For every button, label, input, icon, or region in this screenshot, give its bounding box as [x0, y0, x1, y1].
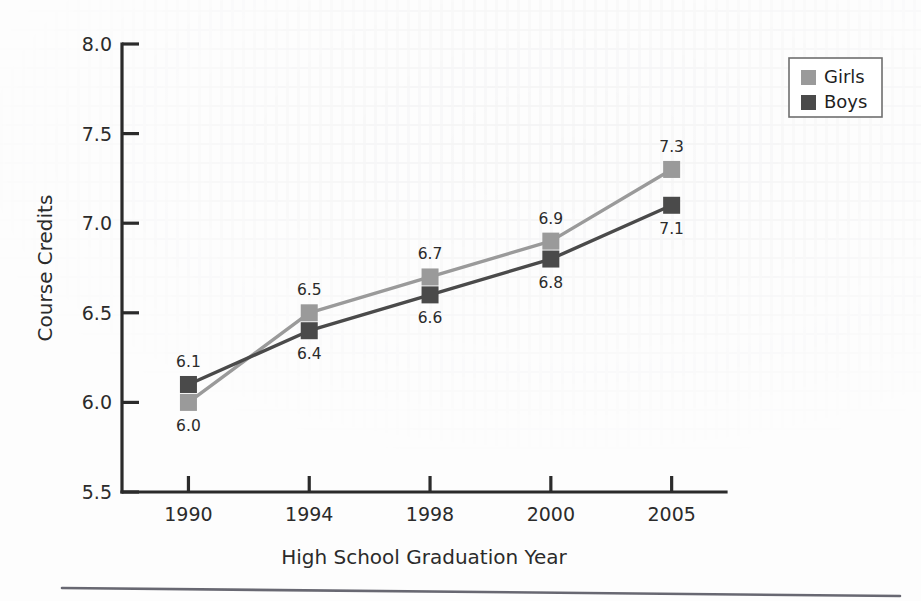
legend-swatch-boys	[801, 95, 816, 110]
y-tick-label: 7.0	[82, 212, 112, 234]
data-point-label: 6.6	[418, 309, 443, 327]
data-point-label: 6.5	[297, 281, 322, 299]
data-marker-girls	[663, 161, 680, 178]
data-point-label: 6.4	[297, 345, 322, 363]
data-point-label: 6.0	[176, 417, 201, 435]
legend-label-boys: Boys	[824, 91, 867, 112]
chart-page: 5.56.06.57.07.58.0 19901994199820002005 …	[0, 0, 921, 601]
x-axis-tick-labels: 19901994199820002005	[164, 503, 696, 525]
data-point-label: 7.3	[659, 138, 684, 156]
y-tick-label: 6.5	[82, 302, 112, 324]
data-marker-boys	[663, 197, 680, 214]
x-tick-label: 2000	[527, 503, 575, 525]
data-marker-boys	[180, 376, 197, 393]
data-point-label: 6.9	[539, 210, 564, 228]
y-tick-label: 8.0	[82, 33, 112, 55]
data-point-label: 6.7	[418, 245, 443, 263]
data-marker-boys	[542, 251, 559, 268]
data-marker-girls	[180, 394, 197, 411]
x-axis-ticks	[188, 476, 671, 492]
legend-label-girls: Girls	[824, 66, 865, 87]
data-marker-boys	[301, 322, 318, 339]
chart-legend: GirlsBoys	[789, 58, 882, 117]
x-tick-label: 1990	[164, 503, 212, 525]
series-lines	[188, 169, 671, 402]
y-axis-title: Course Credits	[33, 195, 57, 342]
y-tick-label: 5.5	[82, 481, 112, 503]
data-point-label: 7.1	[659, 220, 684, 238]
data-marker-girls	[422, 268, 439, 285]
data-point-label: 6.8	[539, 274, 564, 292]
data-point-label: 6.1	[176, 353, 201, 371]
x-tick-label: 1994	[285, 503, 333, 525]
data-marker-girls	[301, 304, 318, 321]
x-tick-label: 2005	[647, 503, 695, 525]
x-axis-title: High School Graduation Year	[281, 545, 567, 569]
x-tick-label: 1998	[406, 503, 454, 525]
y-axis-tick-labels: 5.56.06.57.07.58.0	[82, 33, 112, 503]
data-marker-boys	[422, 286, 439, 303]
y-tick-label: 7.5	[82, 123, 112, 145]
series-markers	[180, 161, 680, 411]
data-marker-girls	[542, 233, 559, 250]
line-chart: 5.56.06.57.07.58.0 19901994199820002005 …	[0, 0, 921, 601]
legend-swatch-girls	[801, 70, 816, 85]
page-footer-rule	[62, 588, 900, 596]
y-tick-label: 6.0	[82, 391, 112, 413]
y-axis-ticks	[122, 44, 139, 492]
series-line-girls	[188, 169, 671, 402]
